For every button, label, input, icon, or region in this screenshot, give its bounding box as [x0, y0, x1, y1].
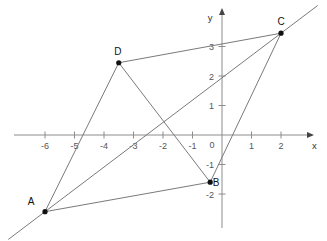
extended-lines-group — [8, 5, 317, 239]
x-tick-label: 1 — [249, 141, 254, 151]
point-label-b: B — [213, 177, 220, 188]
origin-label: 0 — [209, 140, 214, 150]
segment-cd — [119, 33, 281, 63]
segment-da — [45, 63, 119, 212]
coordinate-plane-figure: -6-5-4-3-2-112321-1-2 x y 0 ABCD — [0, 0, 327, 241]
x-axis-label: x — [312, 140, 317, 151]
coordinate-plot-svg: -6-5-4-3-2-112321-1-2 x y 0 ABCD — [0, 0, 327, 241]
y-tick-label: -1 — [206, 160, 214, 170]
x-tick-label: -1 — [188, 141, 196, 151]
x-tick-label: 2 — [278, 141, 283, 151]
x-tick-label: -2 — [159, 141, 167, 151]
y-tick-label: -2 — [206, 190, 214, 200]
point-label-c: C — [277, 16, 284, 27]
segment-db — [119, 63, 210, 182]
point-label-a: A — [28, 196, 35, 207]
x-tick-label: -4 — [100, 141, 108, 151]
y-axis-label: y — [208, 12, 213, 23]
x-tick-label: -6 — [41, 141, 49, 151]
y-tick-label: 2 — [209, 72, 214, 82]
point-label-d: D — [114, 46, 121, 57]
axis-tick-labels-group: -6-5-4-3-2-112321-1-2 — [41, 42, 284, 200]
y-tick-label: 1 — [209, 101, 214, 111]
y-tick-label: 3 — [209, 42, 214, 52]
point-a — [42, 209, 47, 214]
point-c — [278, 31, 283, 36]
extended-line-ac — [8, 5, 317, 239]
point-d — [116, 60, 121, 65]
segment-bc — [210, 33, 281, 182]
segment-ab — [45, 182, 210, 212]
